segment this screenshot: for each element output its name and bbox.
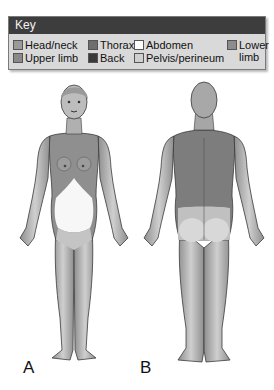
legend-label: Thorax — [100, 39, 134, 51]
legend-label: Upper limb — [25, 52, 78, 64]
swatch-icon — [13, 40, 23, 50]
legend-item-back: Back — [88, 52, 124, 64]
legend-label: Abdomen — [146, 39, 193, 51]
anterior-body-figure — [0, 78, 137, 368]
swatch-icon — [134, 53, 144, 63]
legend-title: Key — [9, 17, 265, 34]
figure-label-b: B — [140, 358, 151, 378]
legend-label: Head/neck — [25, 39, 78, 51]
swatch-icon — [13, 53, 23, 63]
legend-item-pelvis-perineum: Pelvis/perineum — [134, 52, 224, 64]
legend-item-abdomen: Abdomen — [134, 39, 193, 51]
legend-item-head-neck: Head/neck — [13, 39, 78, 51]
legend-item-lower-limb: Lower limb — [227, 39, 269, 63]
legend-label-line: Lower — [239, 39, 269, 51]
legend-label: Back — [100, 52, 124, 64]
swatch-icon — [227, 40, 237, 50]
figure-label-a: A — [23, 358, 34, 378]
legend-item-upper-limb: Upper limb — [13, 52, 78, 64]
legend-label: Lower limb — [239, 39, 269, 63]
legend-item-thorax: Thorax — [88, 39, 134, 51]
swatch-icon — [88, 40, 98, 50]
swatch-icon — [134, 40, 144, 50]
posterior-body-figure — [134, 78, 274, 368]
legend-label: Pelvis/perineum — [146, 52, 224, 64]
legend-key: Key Head/neck Upper limb Thorax Back Abd… — [8, 16, 266, 70]
legend-label-line: limb — [239, 51, 269, 63]
swatch-icon — [88, 53, 98, 63]
legend-body: Head/neck Upper limb Thorax Back Abdomen… — [9, 34, 265, 69]
